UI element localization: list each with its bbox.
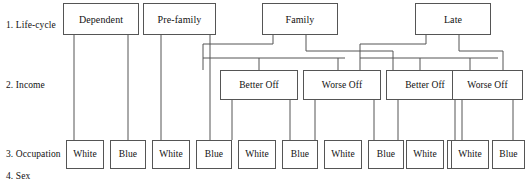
- income-family-worse-label: Worse Off: [322, 80, 362, 91]
- occupation-2[interactable]: Blue: [110, 140, 146, 169]
- lifecycle-late-label: Late: [444, 14, 462, 25]
- occupation-4-label: Blue: [205, 149, 223, 160]
- row-label-sex: 4. Sex: [6, 171, 30, 182]
- row-label-income: 2. Income: [6, 80, 45, 91]
- income-late-worse-label: Worse Off: [467, 80, 507, 91]
- income-family-better-label: Better Off: [239, 80, 279, 91]
- income-late-worse[interactable]: Worse Off: [452, 70, 523, 100]
- occupation-9-label: White: [413, 149, 437, 160]
- income-family-worse[interactable]: Worse Off: [303, 70, 381, 100]
- lifecycle-prefamily-label: Pre-family: [158, 14, 202, 25]
- occupation-8[interactable]: Blue: [368, 140, 404, 169]
- occupation-5[interactable]: White: [238, 140, 276, 169]
- income-late-better-label: Better Off: [405, 80, 445, 91]
- conn-family-left-stem: [203, 35, 273, 70]
- occupation-6[interactable]: Blue: [282, 140, 318, 169]
- occupation-1-label: White: [73, 149, 97, 160]
- occupation-11-label: White: [458, 149, 482, 160]
- lifecycle-dependent[interactable]: Dependent: [63, 3, 139, 35]
- occupation-3-label: White: [159, 149, 183, 160]
- occupation-7-label: White: [331, 149, 355, 160]
- conn-family-right-stem: [306, 35, 393, 70]
- row-label-lifecycle: 1. Life-cycle: [6, 20, 56, 31]
- diagram-canvas: 1. Life-cycle2. Income3. Occupation4. Se…: [0, 0, 529, 184]
- occupation-8-label: Blue: [377, 149, 395, 160]
- lifecycle-dependent-label: Dependent: [79, 14, 123, 25]
- occupation-3[interactable]: White: [152, 140, 190, 169]
- occupation-12[interactable]: Blue: [492, 140, 525, 169]
- occupation-7[interactable]: White: [324, 140, 362, 169]
- income-family-better[interactable]: Better Off: [220, 70, 298, 100]
- occupation-11[interactable]: White: [451, 140, 489, 169]
- lifecycle-family-label: Family: [286, 14, 315, 25]
- lifecycle-prefamily[interactable]: Pre-family: [143, 3, 216, 35]
- occupation-6-label: Blue: [291, 149, 309, 160]
- occupation-9[interactable]: White: [406, 140, 444, 169]
- row-label-occupation: 3. Occupation: [6, 149, 61, 160]
- lifecycle-family[interactable]: Family: [262, 3, 338, 35]
- lifecycle-late[interactable]: Late: [415, 3, 491, 35]
- occupation-1[interactable]: White: [66, 140, 104, 169]
- occupation-12-label: Blue: [499, 149, 517, 160]
- occupation-2-label: Blue: [119, 149, 137, 160]
- occupation-5-label: White: [245, 149, 269, 160]
- conn-late-right-stem: [459, 35, 503, 70]
- occupation-4[interactable]: Blue: [196, 140, 232, 169]
